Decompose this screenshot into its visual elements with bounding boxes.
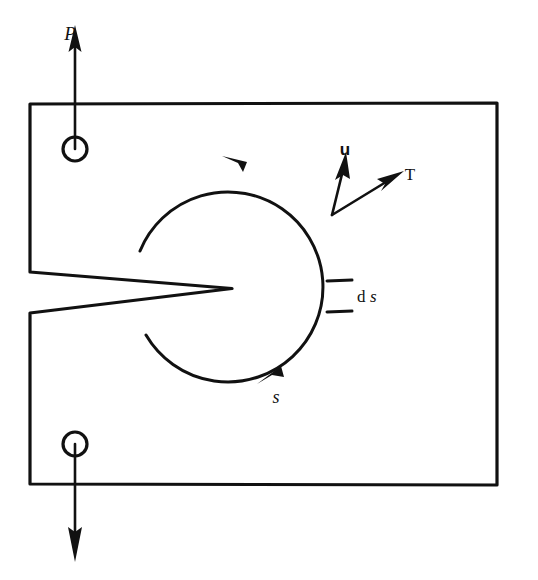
arc-element-label-s: s xyxy=(370,287,377,306)
load-label-P: P xyxy=(63,23,76,44)
vector-label-u: u xyxy=(340,140,350,159)
vector-label-T: T xyxy=(405,165,416,184)
bottom-load-arrowhead xyxy=(68,527,82,562)
crack-tip-contour-diagram: P u T s d s xyxy=(0,0,538,580)
contour-direction-arrowhead-top xyxy=(222,156,247,172)
arc-label-s: s xyxy=(272,387,279,407)
plate-outline-with-crack xyxy=(30,103,497,485)
ds-tick-lower xyxy=(327,311,352,312)
ds-tick-upper xyxy=(327,280,352,281)
vector-T-arrowhead xyxy=(377,171,404,191)
figure-root: P u T s d s xyxy=(0,0,538,580)
arc-element-label-d: d xyxy=(357,287,366,306)
